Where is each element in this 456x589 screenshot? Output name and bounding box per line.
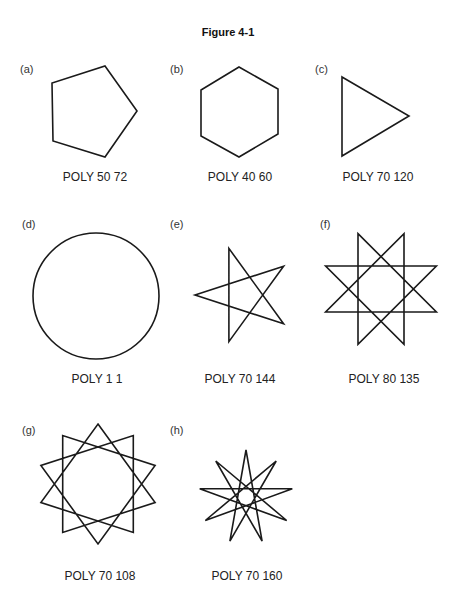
eight-point-star-shape [326, 234, 437, 345]
hexagon-shape [201, 67, 278, 157]
ten-point-star-shape [41, 424, 155, 544]
pentagon-shape [52, 66, 137, 157]
triangle-shape [342, 77, 409, 156]
circle-shape [33, 233, 159, 359]
figure-canvas [0, 0, 456, 589]
nine-point-star-shape [200, 450, 293, 541]
five-point-star-shape [195, 248, 284, 341]
